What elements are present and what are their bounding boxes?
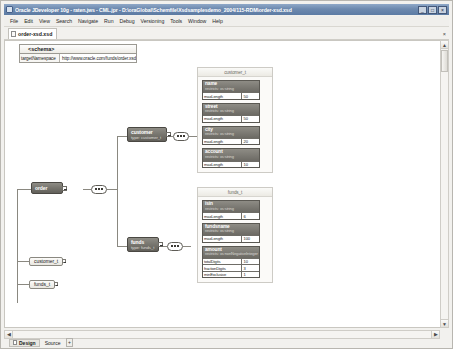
vertical-scroll-thumb[interactable]: [441, 50, 448, 72]
menu-item-search[interactable]: Search: [53, 18, 75, 24]
connector-line: [117, 136, 118, 246]
menu-item-debug[interactable]: Debug: [116, 18, 137, 24]
scroll-left-arrow-icon[interactable]: ◀: [5, 331, 13, 338]
schema-root-node[interactable]: <schema> targetNamespace http://www.orac…: [19, 44, 137, 63]
scroll-up-arrow-icon[interactable]: ▲: [441, 41, 448, 49]
tabs-overflow-button[interactable]: +: [66, 338, 74, 347]
element-node-funds[interactable]: funds type: funds_t: [127, 237, 163, 252]
facet-row[interactable]: maxLength 50: [203, 92, 259, 99]
attribute-restricts: restricts: xs:string: [205, 229, 257, 234]
element-customer-type: type: customer_t: [131, 135, 163, 140]
connector-line: [107, 189, 117, 190]
element-funds-box[interactable]: funds type: funds_t: [127, 237, 159, 252]
document-close-icon[interactable]: ×: [443, 31, 446, 37]
window-controls: _ □ ×: [418, 6, 447, 14]
connector-line: [83, 189, 91, 190]
facet-row[interactable]: maxLength 50: [203, 115, 259, 122]
facet-row[interactable]: minExclusive 1: [203, 271, 259, 278]
expand-collapse-handle[interactable]: [54, 282, 58, 286]
facet-value: 6: [242, 213, 259, 219]
facet-key: maxLength: [203, 139, 242, 145]
attribute-city[interactable]: city restricts: xs:string maxLength 20: [202, 126, 260, 146]
schema-design-canvas[interactable]: <schema> targetNamespace http://www.orac…: [4, 40, 440, 328]
global-type-funds-t[interactable]: funds_t: [29, 280, 58, 289]
vertical-scrollbar[interactable]: ▲ ▼: [440, 40, 449, 328]
facet-key: totalDigits: [203, 259, 242, 265]
facet-value: 50: [242, 116, 259, 122]
menu-item-run[interactable]: Run: [101, 18, 116, 24]
facet-value: 10: [242, 162, 259, 168]
schema-property-row[interactable]: targetNamespace http://www.oracle.com/fu…: [19, 54, 137, 63]
menu-item-versioning[interactable]: Versioning: [138, 18, 168, 24]
tab-source[interactable]: Source: [42, 339, 64, 347]
attribute-account[interactable]: account restricts: xs:string maxLength 1…: [202, 148, 260, 168]
editor-view-tabs: Design Source +: [4, 338, 73, 347]
scroll-right-arrow-icon[interactable]: ▶: [431, 331, 439, 338]
menu-item-edit[interactable]: Edit: [21, 18, 36, 24]
expand-collapse-handle[interactable]: [158, 242, 163, 247]
element-customer-box[interactable]: customer type: customer_t: [127, 127, 167, 142]
element-funds-type: type: funds_t: [131, 245, 155, 250]
global-type-customer-t[interactable]: customer_t: [29, 257, 66, 266]
sequence-compositor-funds[interactable]: [167, 242, 183, 251]
menu-item-window[interactable]: Window: [185, 18, 209, 24]
element-node-order[interactable]: order: [31, 182, 67, 194]
global-type-label: funds_t: [29, 280, 55, 289]
type-panel-title: funds_t: [198, 188, 272, 197]
tab-design[interactable]: Design: [9, 339, 40, 347]
facet-key: maxLength: [203, 93, 242, 99]
attribute-isin[interactable]: isin restricts: xs:string maxLength 6: [202, 200, 260, 220]
attribute-amount[interactable]: amount restricts: xs:nonNegativeInteger …: [202, 246, 260, 279]
minimize-button[interactable]: _: [418, 6, 427, 14]
attribute-fundsname[interactable]: fundsname restricts: xs:string maxLength…: [202, 223, 260, 243]
facet-row[interactable]: totalDigits 10: [203, 258, 259, 265]
facet-value: 20: [242, 139, 259, 145]
connector-line: [183, 246, 191, 247]
element-order-box[interactable]: order: [31, 182, 63, 194]
menu-item-navigate[interactable]: Navigate: [75, 18, 101, 24]
sequence-compositor-customer[interactable]: [173, 132, 189, 141]
facet-row[interactable]: maxLength 20: [203, 138, 259, 145]
attribute-street[interactable]: street restricts: xs:string maxLength 50: [202, 103, 260, 123]
type-panel-customer-t[interactable]: customer_t name restricts: xs:string max…: [197, 67, 273, 173]
close-button[interactable]: ×: [438, 6, 447, 14]
attribute-restricts: restricts: xs:string: [205, 109, 257, 114]
type-panel-title: customer_t: [198, 68, 272, 77]
attribute-name[interactable]: name restricts: xs:string maxLength 50: [202, 80, 260, 100]
menu-bar: File Edit View Search Navigate Run Debug…: [4, 16, 449, 27]
schema-property-value: http://www.oracle.com/funds/order.xsd: [60, 54, 136, 62]
menu-item-tools[interactable]: Tools: [167, 18, 185, 24]
document-tab-order-xsd[interactable]: order-xsd.xsd: [8, 28, 57, 39]
facet-value: 3: [242, 265, 259, 271]
expand-collapse-handle[interactable]: [62, 259, 66, 263]
xml-file-icon: [11, 31, 16, 37]
element-order-name: order: [35, 185, 59, 191]
facet-row[interactable]: maxLength 10: [203, 161, 259, 168]
expand-collapse-handle[interactable]: [166, 132, 171, 137]
facet-value: 10: [242, 259, 259, 265]
expand-collapse-handle[interactable]: [62, 186, 67, 191]
menu-item-file[interactable]: File: [7, 18, 21, 24]
attribute-restricts: restricts: xs:string: [205, 87, 257, 92]
design-view-icon: [13, 340, 17, 345]
facet-row[interactable]: maxLength 6: [203, 212, 259, 219]
facet-key: minExclusive: [203, 272, 242, 278]
facet-key: fractionDigits: [203, 265, 242, 271]
element-node-customer[interactable]: customer type: customer_t: [127, 127, 171, 142]
facet-key: maxLength: [203, 162, 242, 168]
type-panel-funds-t[interactable]: funds_t isin restricts: xs:string maxLen…: [197, 187, 273, 283]
connector-line: [17, 261, 29, 262]
connector-line: [17, 284, 29, 285]
tab-design-label: Design: [19, 340, 36, 346]
scroll-down-arrow-icon[interactable]: ▼: [441, 319, 448, 327]
sequence-compositor-order[interactable]: [91, 185, 107, 194]
facet-row[interactable]: maxLength 100: [203, 235, 259, 242]
facet-row[interactable]: fractionDigits 3: [203, 264, 259, 271]
menu-item-help[interactable]: Help: [209, 18, 225, 24]
attribute-restricts: restricts: xs:nonNegativeInteger: [205, 252, 257, 257]
menu-item-view[interactable]: View: [36, 18, 53, 24]
facet-key: maxLength: [203, 213, 242, 219]
maximize-button[interactable]: □: [428, 6, 437, 14]
connector-line: [189, 136, 197, 137]
attribute-restricts: restricts: xs:string: [205, 207, 257, 212]
